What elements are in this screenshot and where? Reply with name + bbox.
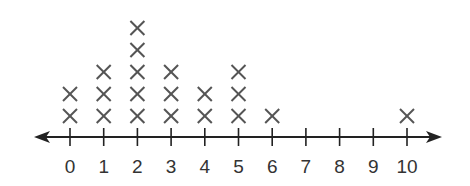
x-marks [63, 21, 414, 123]
x-mark-icon [130, 43, 144, 57]
line-plot: 012345678910 [0, 0, 470, 186]
axis-tick-labels: 012345678910 [65, 156, 418, 177]
x-mark-icon [198, 109, 212, 123]
x-mark-icon [130, 109, 144, 123]
tick-label-0: 0 [65, 156, 76, 177]
tick-label-4: 4 [200, 156, 211, 177]
x-mark-icon [400, 109, 414, 123]
tick-label-7: 7 [301, 156, 312, 177]
x-mark-icon [164, 109, 178, 123]
x-mark-icon [198, 87, 212, 101]
tick-label-3: 3 [166, 156, 177, 177]
tick-label-5: 5 [233, 156, 244, 177]
tick-label-8: 8 [334, 156, 345, 177]
tick-label-1: 1 [98, 156, 109, 177]
tick-label-10: 10 [396, 156, 417, 177]
x-mark-icon [232, 87, 246, 101]
tick-label-6: 6 [267, 156, 278, 177]
x-mark-icon [63, 87, 77, 101]
x-mark-icon [232, 65, 246, 79]
tick-label-2: 2 [132, 156, 143, 177]
x-mark-icon [130, 65, 144, 79]
x-mark-icon [164, 87, 178, 101]
x-mark-icon [232, 109, 246, 123]
tick-label-9: 9 [368, 156, 379, 177]
x-mark-icon [97, 109, 111, 123]
x-mark-icon [97, 65, 111, 79]
x-mark-icon [63, 109, 77, 123]
x-mark-icon [164, 65, 178, 79]
x-mark-icon [97, 87, 111, 101]
x-mark-icon [130, 87, 144, 101]
x-mark-icon [265, 109, 279, 123]
x-mark-icon [130, 21, 144, 35]
